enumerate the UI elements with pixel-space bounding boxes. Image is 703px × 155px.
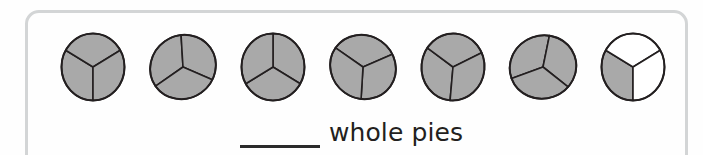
answer-label: whole pies (329, 118, 463, 147)
pie-4 (330, 32, 396, 102)
pie-2 (150, 32, 216, 102)
pie-1 (60, 32, 126, 102)
answer-row: whole pies (0, 112, 703, 152)
pie-5 (420, 32, 486, 102)
pie-7 (600, 32, 666, 102)
answer-blank-input[interactable] (240, 125, 320, 148)
worksheet-item: whole pies (0, 0, 703, 155)
pies-row (60, 32, 672, 104)
pie-6 (510, 32, 576, 102)
pie-3 (240, 32, 306, 102)
